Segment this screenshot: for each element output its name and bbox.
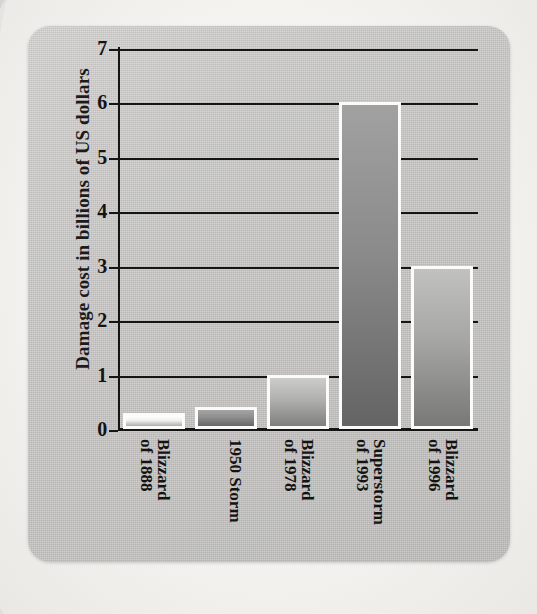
y-tick-label-4: 4 (97, 200, 107, 223)
y-tick-mark-4 (109, 212, 118, 214)
x-axis-label-5: Blizzard of 1996 (425, 439, 460, 500)
y-axis-title: Damage cost in billions of US dollars (72, 54, 94, 384)
y-tick-label-7: 7 (97, 37, 107, 60)
bar-2 (195, 407, 257, 429)
y-tick-mark-6 (109, 103, 118, 105)
plot-area: 01234567 Blizzard of 18881950 StormBlizz… (118, 47, 478, 430)
x-axis-label-3: Blizzard of 1978 (281, 439, 316, 500)
y-tick-label-1: 1 (97, 363, 107, 386)
y-tick-label-2: 2 (97, 309, 107, 332)
x-axis-label-1: Blizzard of 1888 (137, 439, 172, 500)
gridline-4 (118, 212, 478, 214)
y-tick-mark-0 (109, 430, 118, 432)
y-tick-mark-1 (109, 376, 118, 378)
bar-1 (123, 413, 185, 429)
y-tick-label-6: 6 (97, 91, 107, 114)
bar-3 (267, 375, 329, 429)
gridline-5 (118, 158, 478, 160)
y-tick-label-3: 3 (97, 254, 107, 277)
y-tick-mark-3 (109, 267, 118, 269)
gridline-6 (118, 103, 478, 105)
y-tick-mark-5 (109, 158, 118, 160)
chart-card: Damage cost in billions of US dollars 01… (28, 26, 510, 562)
bar-5 (411, 266, 473, 429)
x-axis-label-4: Superstorm of 1993 (353, 439, 388, 525)
bar-4 (339, 102, 401, 429)
y-tick-label-5: 5 (97, 145, 107, 168)
y-tick-mark-7 (109, 49, 118, 51)
x-axis-label-2: 1950 Storm (227, 439, 244, 523)
y-tick-mark-2 (109, 321, 118, 323)
y-tick-label-0: 0 (97, 418, 107, 441)
gridline-7 (118, 49, 478, 51)
